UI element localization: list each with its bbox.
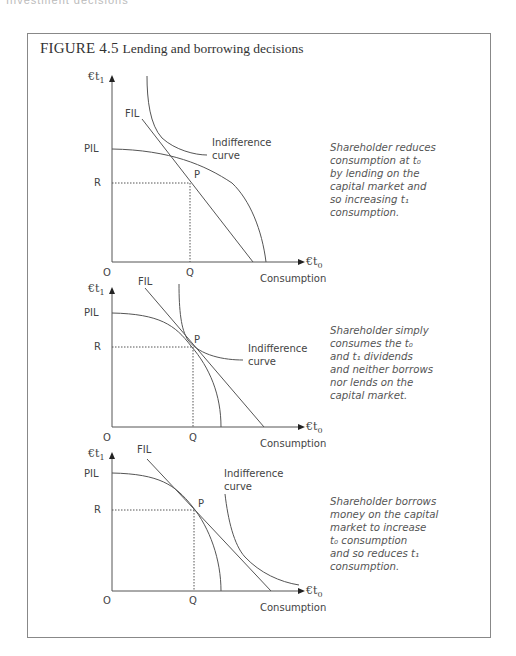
p-label: P (198, 498, 204, 509)
y-axis-arrow-icon (109, 452, 115, 459)
q-label: Q (189, 595, 197, 606)
panel-3-caption: Shareholder borrows money on the capital… (330, 495, 480, 573)
x-axis-label: €t0 (305, 584, 323, 599)
x-axis-arrow-icon (298, 588, 305, 594)
origin-label: O (103, 595, 111, 606)
indifference-label-1: Indifference (224, 468, 284, 479)
indifference-label-2: curve (224, 481, 252, 492)
x-axis-title: Consumption (260, 602, 326, 613)
r-label: R (94, 504, 101, 515)
y-axis-label: €t1 (87, 447, 105, 462)
pil-curve (112, 473, 221, 591)
fil-label: FIL (137, 444, 152, 455)
pil-label: PIL (84, 468, 99, 479)
indifference-curve (225, 494, 299, 585)
